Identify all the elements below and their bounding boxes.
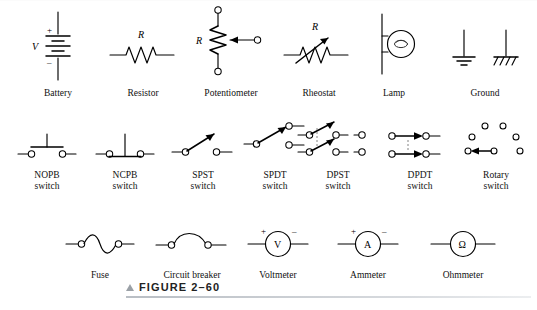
symbol-cell-rotary: Rotary switch: [458, 118, 534, 192]
potentiometer-symbol: R: [186, 0, 276, 86]
nopb-switch-symbol: [8, 126, 86, 168]
symbol-cell-fuse: Fuse: [52, 228, 148, 281]
ammeter-minus-annotation: –: [381, 226, 387, 236]
symbol-label-dpdt: DPDT switch: [378, 170, 462, 192]
voltmeter-symbol: V + –: [232, 222, 324, 268]
symbol-label-lamp: Lamp: [356, 88, 432, 99]
ground-symbol: [440, 8, 530, 86]
symbol-cell-circuit-breaker: Circuit breaker: [140, 228, 244, 281]
symbol-label-circuit-breaker: Circuit breaker: [140, 270, 244, 281]
symbol-cell-rheostat: R Rheostat: [276, 8, 362, 99]
ohmmeter-letter: Ω: [459, 239, 466, 250]
voltmeter-plus-annotation: +: [261, 226, 266, 236]
symbol-label-ncpb: NCPB switch: [86, 170, 164, 192]
symbol-label-rheostat: Rheostat: [276, 88, 362, 99]
battery-voltage-annotation: V: [32, 41, 40, 52]
circuit-breaker-symbol: [140, 228, 244, 268]
symbol-cell-spst: SPST switch: [164, 122, 242, 192]
symbol-label-resistor: Resistor: [100, 88, 186, 99]
lamp-symbol: [356, 2, 432, 86]
caption-rule: [126, 296, 531, 298]
fuse-symbol: [52, 228, 148, 268]
symbol-cell-lamp: Lamp: [356, 2, 432, 99]
symbol-label-dpst: DPST switch: [292, 170, 384, 192]
figure-page: V + – Battery R Resistor: [0, 0, 537, 310]
symbol-label-nopb: NOPB switch: [8, 170, 86, 192]
symbol-cell-ncpb: NCPB switch: [86, 126, 164, 192]
rotary-switch-symbol: [458, 118, 534, 168]
symbol-label-ground: Ground: [440, 88, 530, 99]
rheostat-value-annotation: R: [311, 21, 318, 32]
dpdt-switch-symbol: [378, 122, 462, 168]
battery-minus-annotation: –: [46, 57, 52, 67]
resistor-symbol: R: [100, 8, 186, 86]
symbol-label-ohmmeter: Ohmmeter: [414, 270, 512, 281]
dpst-switch-symbol: [292, 118, 384, 168]
symbol-cell-battery: V + – Battery: [18, 8, 98, 99]
ohmmeter-symbol: Ω: [414, 222, 512, 268]
voltmeter-letter: V: [274, 239, 282, 250]
symbol-cell-ammeter: A + – Ammeter: [322, 222, 414, 281]
ammeter-plus-annotation: +: [351, 226, 356, 236]
symbol-cell-nopb: NOPB switch: [8, 126, 86, 192]
battery-plus-annotation: +: [47, 25, 52, 35]
figure-caption: FIGURE 2–60: [126, 281, 220, 293]
symbol-cell-potentiometer: R Potentiometer: [186, 0, 276, 99]
figure-caption-text: FIGURE 2–60: [139, 281, 220, 293]
triangle-marker-icon: [126, 284, 134, 291]
ammeter-letter: A: [364, 239, 372, 250]
spst-switch-symbol: [164, 122, 242, 168]
symbol-label-ammeter: Ammeter: [322, 270, 414, 281]
symbol-label-voltmeter: Voltmeter: [232, 270, 324, 281]
symbol-label-potentiometer: Potentiometer: [186, 88, 276, 99]
voltmeter-minus-annotation: –: [291, 226, 297, 236]
symbol-cell-resistor: R Resistor: [100, 8, 186, 99]
symbol-label-spst: SPST switch: [164, 170, 242, 192]
symbol-cell-dpst: DPST switch: [292, 118, 384, 192]
symbol-cell-dpdt: DPDT switch: [378, 122, 462, 192]
rheostat-symbol: R: [276, 8, 362, 86]
symbol-cell-ground: Ground: [440, 8, 530, 99]
symbol-cell-voltmeter: V + – Voltmeter: [232, 222, 324, 281]
potentiometer-value-annotation: R: [195, 35, 202, 46]
symbol-cell-ohmmeter: Ω Ohmmeter: [414, 222, 512, 281]
symbol-label-fuse: Fuse: [52, 270, 148, 281]
symbol-label-rotary: Rotary switch: [458, 170, 534, 192]
ncpb-switch-symbol: [86, 126, 164, 168]
resistor-value-annotation: R: [137, 29, 144, 40]
symbol-label-battery: Battery: [18, 88, 98, 99]
battery-symbol: V + –: [18, 8, 98, 86]
ammeter-symbol: A + –: [322, 222, 414, 268]
